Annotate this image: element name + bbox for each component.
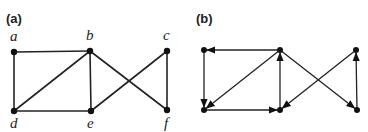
panel-a-edges bbox=[14, 51, 167, 111]
node-b bbox=[277, 47, 283, 53]
graph-diagram: (a) abcdef (b) bbox=[0, 0, 368, 132]
node-label-a: a bbox=[10, 28, 18, 44]
node-a bbox=[201, 47, 207, 53]
panel-b-directed-graph: (b) bbox=[196, 11, 360, 113]
edge-f-c bbox=[356, 53, 357, 110]
edge-b-f bbox=[280, 50, 355, 108]
node-f bbox=[354, 107, 360, 113]
panel-a-undirected-graph: (a) abcdef bbox=[6, 11, 170, 131]
node-a bbox=[11, 49, 17, 55]
node-label-b: b bbox=[86, 27, 94, 43]
panel-b-label: (b) bbox=[196, 11, 213, 26]
node-b bbox=[87, 48, 93, 54]
node-f bbox=[164, 107, 170, 113]
node-e bbox=[277, 107, 283, 113]
node-c bbox=[353, 47, 359, 53]
node-d bbox=[201, 107, 207, 113]
edge-a-b bbox=[14, 51, 90, 52]
edge-b-d bbox=[14, 51, 90, 111]
edge-c-e bbox=[282, 50, 356, 108]
node-label-c: c bbox=[163, 27, 170, 43]
edge-b-d bbox=[206, 50, 280, 108]
panel-b-edges bbox=[204, 50, 357, 110]
panel-a-label: (a) bbox=[6, 11, 22, 26]
edge-b-e bbox=[90, 51, 91, 111]
node-label-e: e bbox=[87, 115, 94, 131]
node-d bbox=[11, 108, 17, 114]
node-label-f: f bbox=[164, 115, 170, 131]
node-c bbox=[164, 48, 170, 54]
node-label-d: d bbox=[10, 115, 18, 131]
node-e bbox=[88, 108, 94, 114]
